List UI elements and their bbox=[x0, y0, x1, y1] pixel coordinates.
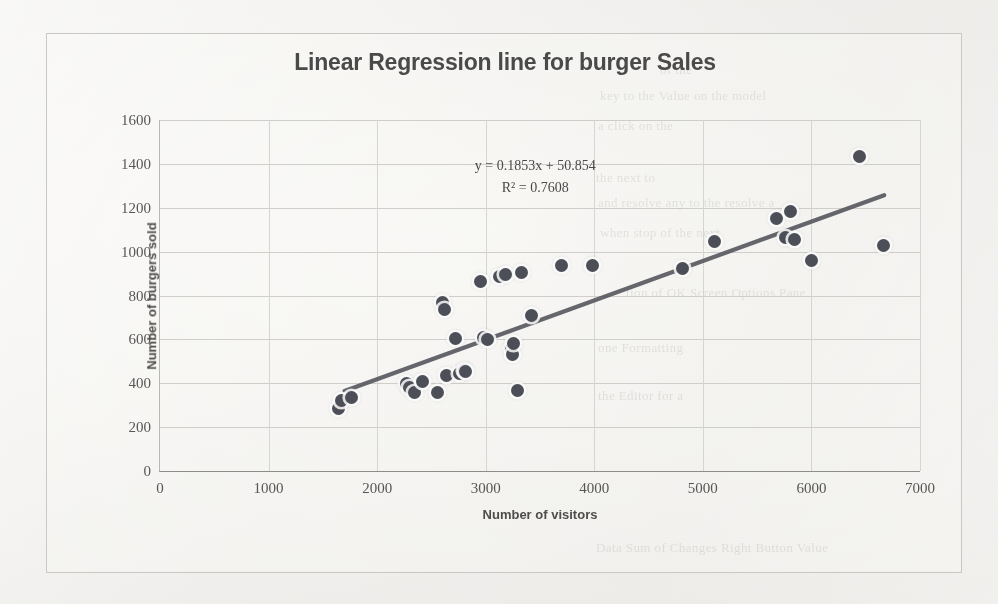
scatter-point bbox=[506, 348, 519, 361]
scatter-point bbox=[431, 386, 444, 399]
x-axis-title: Number of visitors bbox=[160, 507, 920, 522]
gridline-vertical bbox=[811, 120, 812, 471]
scatter-point bbox=[449, 332, 462, 345]
y-axis-tick-label: 200 bbox=[129, 419, 152, 436]
gridline-horizontal bbox=[160, 252, 920, 253]
gridline-vertical bbox=[920, 120, 921, 471]
x-axis-tick-label: 1000 bbox=[254, 480, 284, 497]
scatter-point bbox=[474, 275, 487, 288]
x-axis-tick-label: 6000 bbox=[796, 480, 826, 497]
scatter-point bbox=[459, 365, 472, 378]
scatter-point bbox=[525, 309, 538, 322]
y-axis-title: Number of burgers sold bbox=[144, 222, 159, 369]
equation-text: y = 0.1853x + 50.854 bbox=[475, 155, 596, 177]
scatter-point bbox=[708, 235, 721, 248]
scatter-point bbox=[853, 150, 866, 163]
r-squared-text: R² = 0.7608 bbox=[475, 177, 596, 199]
scatter-point bbox=[586, 259, 599, 272]
scatter-point bbox=[507, 337, 520, 350]
regression-equation-annotation: y = 0.1853x + 50.854 R² = 0.7608 bbox=[475, 155, 596, 198]
scatter-point bbox=[788, 233, 801, 246]
scatter-point bbox=[440, 369, 453, 382]
chart-container: Linear Regression line for burger Sales … bbox=[46, 33, 962, 573]
scatter-point bbox=[805, 254, 818, 267]
x-axis-tick-label: 2000 bbox=[362, 480, 392, 497]
scatter-point bbox=[784, 205, 797, 218]
scatter-point bbox=[511, 384, 524, 397]
scatter-point bbox=[345, 391, 358, 404]
x-axis-tick-label: 4000 bbox=[579, 480, 609, 497]
gridline-horizontal bbox=[160, 120, 920, 121]
scatter-point bbox=[515, 266, 528, 279]
x-axis-tick-label: 0 bbox=[156, 480, 164, 497]
x-axis-tick-label: 3000 bbox=[471, 480, 501, 497]
scatter-point bbox=[877, 239, 890, 252]
gridline-vertical bbox=[377, 120, 378, 471]
y-axis-tick-label: 1600 bbox=[121, 112, 151, 129]
scatter-point bbox=[676, 262, 689, 275]
scatter-point bbox=[555, 259, 568, 272]
x-axis-tick-label: 7000 bbox=[905, 480, 935, 497]
scatter-point bbox=[438, 303, 451, 316]
scatter-point bbox=[408, 386, 421, 399]
y-axis-tick-label: 1400 bbox=[121, 155, 151, 172]
gridline-horizontal bbox=[160, 296, 920, 297]
gridline-horizontal bbox=[160, 383, 920, 384]
scatter-point bbox=[481, 333, 494, 346]
gridline-vertical bbox=[703, 120, 704, 471]
y-axis-tick-label: 0 bbox=[144, 463, 152, 480]
scatter-point bbox=[770, 212, 783, 225]
gridline-vertical bbox=[269, 120, 270, 471]
gridline-horizontal bbox=[160, 427, 920, 428]
y-axis-tick-label: 400 bbox=[129, 375, 152, 392]
x-axis-tick-label: 5000 bbox=[688, 480, 718, 497]
plot-area: 02004006008001000120014001600 0100020003… bbox=[159, 120, 920, 472]
gridline-horizontal bbox=[160, 208, 920, 209]
y-axis-tick-label: 1200 bbox=[121, 199, 151, 216]
scatter-point bbox=[416, 375, 429, 388]
gridline-horizontal bbox=[160, 339, 920, 340]
chart-title: Linear Regression line for burger Sales bbox=[47, 49, 963, 76]
scatter-point bbox=[499, 268, 512, 281]
